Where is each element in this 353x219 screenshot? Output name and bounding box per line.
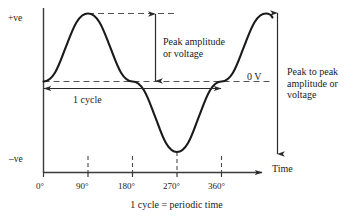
tick-dropper-lines xyxy=(88,152,222,172)
y-axis-negative-label: –ve xyxy=(9,154,23,165)
x-tick-label-180: 180° xyxy=(118,181,135,192)
zero-volt-label: 0 V xyxy=(247,71,262,82)
y-axis-positive-label: +ve xyxy=(8,13,22,24)
figure-caption: 1 cycle = periodic time xyxy=(0,199,353,210)
x-tick-label-90: 90° xyxy=(76,181,89,192)
peak-to-peak-label: Peak to peak amplitude or voltage xyxy=(287,66,338,101)
x-tick-label-270: 270° xyxy=(163,181,180,192)
sine-wave-diagram: +ve –ve Peak amplitude or voltage 0 V Pe… xyxy=(0,0,353,219)
x-tick-label-0: 0° xyxy=(36,181,44,192)
x-axis-time-label: Time xyxy=(272,163,293,174)
x-tick-label-360: 360° xyxy=(208,181,225,192)
one-cycle-label: 1 cycle xyxy=(73,94,102,105)
sine-wave-curve xyxy=(44,14,273,153)
peak-amplitude-label: Peak amplitude or voltage xyxy=(163,36,225,59)
